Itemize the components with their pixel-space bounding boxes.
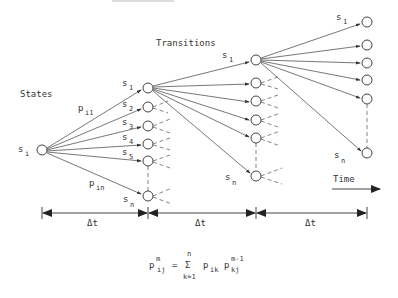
svg-text:4: 4	[129, 138, 133, 146]
svg-text:s: s	[122, 147, 127, 157]
edges-col2-to-col3	[153, 62, 250, 173]
svg-text:Σ: Σ	[185, 260, 190, 270]
prob-label-in: p in	[89, 178, 104, 192]
svg-text:s: s	[18, 144, 23, 154]
svg-text:s: s	[222, 50, 227, 60]
svg-text:p: p	[149, 260, 154, 270]
start-state-label: s i	[18, 144, 29, 158]
column3-labels: s 1 s n	[222, 50, 236, 187]
svg-text:ij: ij	[157, 266, 165, 274]
svg-text:s: s	[122, 78, 127, 88]
svg-text:p: p	[203, 260, 208, 270]
col2-dashed-branches	[148, 101, 172, 204]
svg-text:s: s	[122, 99, 127, 109]
interval-label-1: Δt	[87, 218, 98, 228]
markov-transition-diagram: States Transitions s i p i1 p in s 1 s 2…	[0, 0, 398, 298]
svg-text:=: =	[172, 260, 178, 270]
svg-text:s: s	[336, 12, 341, 22]
svg-text:p: p	[89, 178, 94, 188]
svg-text:s: s	[334, 150, 339, 160]
svg-text:s: s	[122, 132, 127, 142]
svg-text:1: 1	[129, 84, 133, 92]
svg-text:m: m	[156, 255, 160, 263]
column4-labels: s 1 s n	[334, 12, 347, 165]
svg-text:s: s	[225, 172, 230, 182]
transitions-heading: Transitions	[156, 38, 216, 48]
svg-text:n: n	[187, 250, 191, 258]
svg-text:kj: kj	[231, 266, 239, 274]
interval-label-2: Δt	[195, 218, 206, 228]
node-start	[37, 145, 47, 155]
svg-text:3: 3	[129, 123, 133, 131]
interval-label-3: Δt	[305, 218, 316, 228]
time-label: Time	[333, 174, 355, 184]
svg-text:s: s	[122, 117, 127, 127]
svg-text:1: 1	[229, 56, 233, 64]
svg-text:m-1: m-1	[231, 255, 244, 263]
svg-text:p: p	[224, 260, 229, 270]
svg-text:1: 1	[343, 18, 347, 26]
states-heading: States	[20, 89, 53, 99]
svg-text:n: n	[341, 157, 345, 165]
svg-text:5: 5	[129, 153, 133, 161]
svg-text:n: n	[232, 179, 236, 187]
svg-text:p: p	[78, 103, 83, 113]
svg-text:i: i	[25, 150, 29, 158]
col3-dashed-branches	[256, 77, 282, 184]
svg-text:s: s	[123, 194, 128, 204]
top-scan-artifact	[112, 0, 174, 2]
prob-label-i1: p i1	[78, 103, 93, 117]
svg-text:n: n	[130, 201, 134, 209]
svg-text:ik: ik	[210, 266, 219, 274]
svg-text:2: 2	[129, 105, 133, 113]
svg-text:k=1: k=1	[183, 273, 196, 281]
svg-text:i1: i1	[85, 109, 93, 117]
svg-text:in: in	[96, 184, 104, 192]
edges-col3-to-col4	[261, 24, 361, 151]
chapman-kolmogorov-formula: p ij m = n Σ k=1 p ik p kj m-1	[149, 250, 244, 281]
